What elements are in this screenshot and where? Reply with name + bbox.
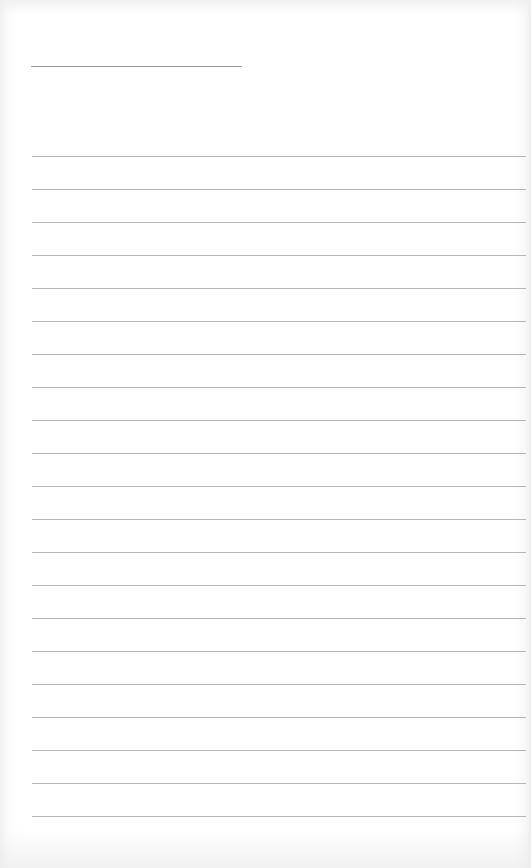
- ruled-line: [32, 222, 526, 223]
- ruled-line: [32, 717, 526, 718]
- ruled-line: [32, 420, 526, 421]
- ruled-line: [32, 585, 526, 586]
- ruled-line: [32, 255, 526, 256]
- ruled-line: [32, 783, 526, 784]
- ruled-line: [32, 552, 526, 553]
- ruled-line: [32, 156, 526, 157]
- ruled-line: [32, 387, 526, 388]
- ruled-line: [32, 816, 526, 817]
- lined-paper-page: [0, 0, 531, 868]
- ruled-line: [32, 486, 526, 487]
- ruled-line: [32, 750, 526, 751]
- ruled-line: [32, 519, 526, 520]
- ruled-line: [32, 288, 526, 289]
- ruled-line: [32, 453, 526, 454]
- ruled-line: [32, 321, 526, 322]
- ruled-line: [32, 651, 526, 652]
- ruled-line: [32, 189, 526, 190]
- ruled-line: [32, 684, 526, 685]
- ruled-line: [32, 618, 526, 619]
- ruled-lines: [0, 0, 531, 868]
- ruled-line: [32, 354, 526, 355]
